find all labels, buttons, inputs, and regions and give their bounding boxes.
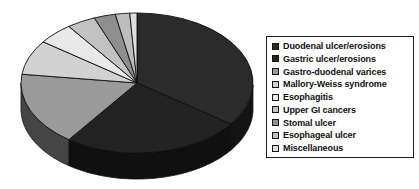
legend-label: Gastric ulcer/erosions	[283, 53, 376, 65]
pie-chart-figure: Duodenal ulcer/erosions Gastric ulcer/er…	[0, 0, 419, 189]
legend-label: Stomal ulcer	[283, 117, 336, 129]
legend-item[interactable]: Gastric ulcer/erosions	[272, 53, 410, 65]
legend-swatch-miscellaneous	[272, 145, 279, 152]
legend-swatch-gastric-ulcer-erosions	[272, 55, 279, 62]
legend-item[interactable]: Duodenal ulcer/erosions	[272, 40, 410, 52]
legend-swatch-mallory-weiss-syndrome	[272, 81, 279, 88]
legend-label: Esophageal ulcer	[283, 129, 356, 141]
chart-legend: Duodenal ulcer/erosions Gastric ulcer/er…	[266, 36, 414, 158]
legend-item[interactable]: Esophageal ulcer	[272, 129, 410, 141]
legend-swatch-duodenal-ulcer-erosions	[272, 43, 279, 50]
legend-label: Miscellaneous	[283, 142, 343, 154]
legend-swatch-gastro-duodenal-varices	[272, 68, 279, 75]
legend-swatch-esophagitis	[272, 94, 279, 101]
legend-label: Upper GI cancers	[283, 104, 356, 116]
legend-item[interactable]: Gastro-duodenal varices	[272, 66, 410, 78]
legend-item[interactable]: Stomal ulcer	[272, 117, 410, 129]
legend-item[interactable]: Esophagitis	[272, 91, 410, 103]
legend-item[interactable]: Mallory-Weiss syndrome	[272, 78, 410, 90]
legend-swatch-stomal-ulcer	[272, 119, 279, 126]
legend-label: Gastro-duodenal varices	[283, 66, 386, 78]
legend-label: Mallory-Weiss syndrome	[283, 78, 387, 90]
legend-swatch-esophageal-ulcer	[272, 132, 279, 139]
legend-swatch-upper-gi-cancers	[272, 106, 279, 113]
legend-label: Esophagitis	[283, 91, 333, 103]
legend-item[interactable]: Upper GI cancers	[272, 104, 410, 116]
pie-slices-group	[21, 13, 253, 179]
legend-label: Duodenal ulcer/erosions	[283, 40, 386, 52]
legend-item[interactable]: Miscellaneous	[272, 142, 410, 154]
